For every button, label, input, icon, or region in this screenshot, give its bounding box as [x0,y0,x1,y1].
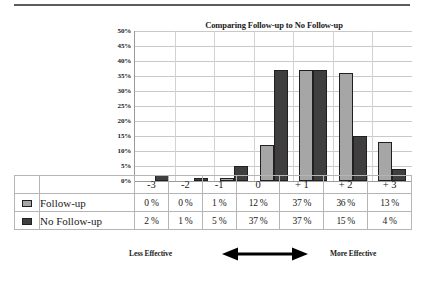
value-nofollowup-6: 4 % [368,212,412,230]
y-tick-label: 25% [95,102,131,110]
category-header-0: -3 [135,176,169,194]
table-row-categories: -3 -2 -1 0 + 1 + 2 + 3 [15,176,412,194]
series-label-followup: Follow-up [40,194,135,212]
y-tick-label: 5% [95,162,131,170]
chart-footer: Less Effective More Effective [0,246,423,268]
category-header-2: -1 [202,176,236,194]
value-followup-5: 36 % [324,194,368,212]
chart-title: Comparing Follow-up to No Follow-up [133,20,415,30]
y-tick-label: 45% [95,42,131,50]
value-nofollowup-5: 15 % [324,212,368,230]
bar-no-follow-up-+1 [313,70,327,181]
value-nofollowup-3: 37 % [236,212,280,230]
gridline [135,61,412,62]
value-followup-1: 0 % [168,194,202,212]
legend-swatch-followup-cell [15,194,40,212]
category-separator [254,31,255,181]
legend-swatch-icon-followup [22,200,32,207]
category-separator [293,31,294,181]
category-header-5: + 2 [324,176,368,194]
legend-swatch-icon-nofollowup [22,218,32,225]
bar-follow-up-+1 [299,70,313,181]
category-row-spacer-label [40,176,135,194]
top-divider-rule [14,4,410,6]
gridline [135,31,412,32]
value-nofollowup-0: 2 % [135,212,169,230]
y-tick-label: 15% [95,132,131,140]
more-effective-label: More Effective [330,249,376,258]
plot-area [134,31,412,182]
double-arrow-icon [222,246,308,262]
chart-container: Comparing Follow-up to No Follow-up 50%4… [95,20,415,192]
data-table: -3 -2 -1 0 + 1 + 2 + 3 Follow-up 0 % 0 %… [14,175,412,230]
category-row-spacer-swatch [15,176,40,194]
category-header-3: 0 [236,176,280,194]
value-nofollowup-4: 37 % [280,212,324,230]
y-tick-label: 35% [95,72,131,80]
less-effective-label: Less Effective [129,249,172,258]
category-separator [175,31,176,181]
y-tick-label: 20% [95,117,131,125]
category-header-1: -2 [168,176,202,194]
y-axis: 50%45%40%35%30%25%20%15%10%5%0% [95,31,131,182]
y-tick-label: 40% [95,57,131,65]
bar-follow-up-+2 [339,73,353,181]
value-nofollowup-2: 5 % [202,212,236,230]
category-separator [372,31,373,181]
value-nofollowup-1: 1 % [168,212,202,230]
value-followup-0: 0 % [135,194,169,212]
legend-swatch-nofollowup-cell [15,212,40,230]
category-header-4: + 1 [280,176,324,194]
table-row-nofollowup: No Follow-up 2 % 1 % 5 % 37 % 37 % 15 % … [15,212,412,230]
value-followup-2: 1 % [202,194,236,212]
y-tick-label: 10% [95,147,131,155]
y-tick-label: 30% [95,87,131,95]
value-followup-3: 12 % [236,194,280,212]
gridline [135,46,412,47]
category-separator [214,31,215,181]
series-label-nofollowup: No Follow-up [40,212,135,230]
y-tick-label: 50% [95,27,131,35]
bar-no-follow-up-0 [274,70,288,181]
table-row-followup: Follow-up 0 % 0 % 1 % 12 % 37 % 36 % 13 … [15,194,412,212]
value-followup-6: 13 % [368,194,412,212]
value-followup-4: 37 % [280,194,324,212]
category-header-6: + 3 [368,176,412,194]
category-separator [333,31,334,181]
